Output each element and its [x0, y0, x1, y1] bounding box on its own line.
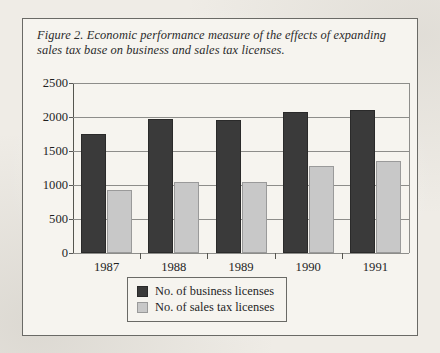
legend-item: No. of sales tax licenses: [137, 299, 274, 315]
y-axis-tick-label: 1500: [43, 144, 68, 159]
x-tick-mark: [275, 253, 276, 259]
figure-caption: Figure 2. Economic performance measure o…: [37, 28, 395, 59]
legend-item: No. of business licenses: [137, 283, 274, 299]
legend-swatch-salestax: [137, 302, 148, 313]
x-axis-tick-label: 1987: [94, 260, 119, 275]
gridline: [73, 83, 409, 84]
y-tick-mark: [69, 253, 73, 254]
bar-business-1991: [350, 110, 375, 253]
right-axis-line: [409, 83, 410, 253]
y-tick-mark: [69, 185, 73, 186]
bar-salestax-1988: [174, 182, 199, 253]
x-axis-tick-label: 1990: [296, 260, 321, 275]
y-axis-tick-label: 0: [62, 246, 68, 261]
y-axis-tick-label: 2000: [43, 110, 68, 125]
x-axis-tick-label: 1988: [161, 260, 186, 275]
y-tick-mark: [69, 151, 73, 152]
y-axis-line: [73, 83, 74, 253]
bar-salestax-1987: [107, 190, 132, 253]
x-tick-mark: [207, 253, 208, 259]
bar-business-1990: [283, 112, 308, 253]
bar-business-1987: [81, 134, 106, 253]
y-tick-mark: [69, 219, 73, 220]
bar-salestax-1991: [376, 161, 401, 253]
y-tick-mark: [69, 117, 73, 118]
gridline: [73, 253, 409, 254]
bar-salestax-1990: [309, 166, 334, 253]
y-axis-tick-label: 1000: [43, 178, 68, 193]
figure-frame: Figure 2. Economic performance measure o…: [22, 18, 418, 336]
y-tick-mark: [69, 83, 73, 84]
bar-business-1988: [148, 119, 173, 253]
x-axis-tick-label: 1989: [228, 260, 253, 275]
legend-label: No. of sales tax licenses: [155, 300, 274, 315]
x-tick-mark: [342, 253, 343, 259]
x-tick-mark: [140, 253, 141, 259]
chart-legend: No. of business licensesNo. of sales tax…: [127, 277, 287, 322]
legend-swatch-business: [137, 286, 148, 297]
chart-plot-area: 05001000150020002500 1987198819891990199…: [73, 83, 409, 253]
legend-label: No. of business licenses: [155, 284, 274, 299]
y-axis-tick-label: 500: [49, 212, 68, 227]
y-axis-tick-label: 2500: [43, 76, 68, 91]
bar-business-1989: [216, 120, 241, 253]
x-axis-tick-label: 1991: [363, 260, 388, 275]
bar-salestax-1989: [242, 182, 267, 253]
